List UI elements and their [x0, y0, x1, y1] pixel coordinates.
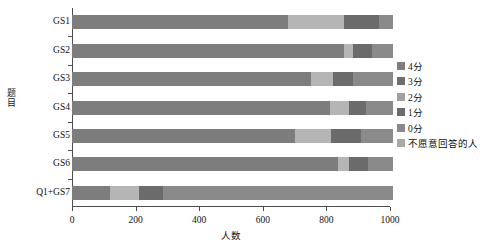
bar-segment — [72, 101, 330, 115]
y-axis-tick — [68, 65, 72, 66]
bar-row — [72, 186, 393, 200]
bar-segment — [349, 101, 366, 115]
legend-item[interactable]: 2分 — [397, 89, 489, 105]
legend-swatch-icon — [397, 139, 405, 147]
y-axis-tick — [68, 150, 72, 151]
bar-segment — [344, 15, 379, 29]
legend-label: 3分 — [408, 74, 423, 88]
y-axis-tick — [68, 122, 72, 123]
x-axis-tick — [72, 207, 73, 211]
plot-area: 02004006008001000 — [72, 8, 390, 207]
legend-swatch-icon — [397, 93, 405, 101]
bar-segment — [288, 15, 344, 29]
bar-segment — [72, 186, 110, 200]
bar-segment — [110, 186, 139, 200]
bar-segment — [330, 101, 349, 115]
legend-label: 4分 — [408, 59, 423, 73]
y-axis-category-labels: GS1GS2GS3GS4GS5GS6Q1+GS7 — [14, 0, 70, 207]
bar-segment — [344, 44, 354, 58]
x-axis-title: 人数 — [72, 228, 390, 242]
bar-row — [72, 15, 393, 29]
x-axis-line — [72, 206, 390, 207]
x-axis-tick-label: 600 — [256, 215, 270, 225]
x-axis-tick — [136, 207, 137, 211]
bar-row — [72, 129, 393, 143]
legend-label: 2分 — [408, 90, 423, 104]
bar-segment — [353, 72, 393, 86]
y-axis-category-label: GS2 — [22, 45, 70, 55]
legend-swatch-icon — [397, 108, 405, 116]
x-axis-tick — [326, 207, 327, 211]
legend-swatch-icon — [397, 62, 405, 70]
y-axis-tick — [68, 36, 72, 37]
y-axis-category-label: GS1 — [22, 16, 70, 26]
legend-item[interactable]: 4分 — [397, 58, 489, 74]
legend-label: 0分 — [408, 121, 423, 135]
bar-segment — [163, 186, 394, 200]
bar-segment — [139, 186, 163, 200]
y-axis-category-label: Q1+GS7 — [22, 187, 70, 197]
bar-segment — [72, 72, 311, 86]
y-axis-category-label: GS4 — [22, 102, 70, 112]
bar-segment — [72, 15, 288, 29]
bar-segment — [72, 44, 344, 58]
y-axis-category-label: GS3 — [22, 73, 70, 83]
bar-row — [72, 72, 393, 86]
legend-label: 1分 — [408, 105, 423, 119]
legend-item[interactable]: 0分 — [397, 120, 489, 136]
x-axis-tick-label: 1000 — [381, 215, 400, 225]
bar-segment — [338, 157, 349, 171]
bar-segment — [72, 157, 338, 171]
y-axis-tick — [68, 93, 72, 94]
bar-segment — [379, 15, 393, 29]
y-axis-tick — [68, 179, 72, 180]
bar-segment — [72, 129, 295, 143]
bar-segment — [295, 129, 332, 143]
x-axis-tick-label: 800 — [319, 215, 333, 225]
bar-segment — [353, 44, 372, 58]
legend-swatch-icon — [397, 124, 405, 132]
bar-row — [72, 101, 393, 115]
bar-segment — [349, 157, 368, 171]
bar-segment — [368, 157, 393, 171]
x-axis-tick — [390, 207, 391, 211]
x-axis-tick-label: 200 — [128, 215, 142, 225]
x-axis-tick-label: 0 — [70, 215, 75, 225]
y-axis-category-label: GS5 — [22, 130, 70, 140]
legend-item[interactable]: 不愿意回答的人 — [397, 136, 489, 152]
bar-segment — [361, 129, 393, 143]
legend-item[interactable]: 1分 — [397, 105, 489, 121]
bar-segment — [331, 129, 361, 143]
stacked-bar-chart: 题 目 GS1GS2GS3GS4GS5GS6Q1+GS7 02004006008… — [0, 0, 490, 247]
x-axis-tick-label: 400 — [192, 215, 206, 225]
legend-swatch-icon — [397, 77, 405, 85]
bar-segment — [311, 72, 333, 86]
x-axis-tick — [263, 207, 264, 211]
y-axis-category-label: GS6 — [22, 158, 70, 168]
legend-item[interactable]: 3分 — [397, 74, 489, 90]
bar-segment — [333, 72, 354, 86]
legend-label: 不愿意回答的人 — [408, 136, 478, 150]
bar-segment — [366, 101, 393, 115]
bar-segment — [372, 44, 393, 58]
bar-row — [72, 157, 393, 171]
x-axis-tick — [199, 207, 200, 211]
bar-row — [72, 44, 393, 58]
legend: 4分3分2分1分0分不愿意回答的人 — [397, 58, 489, 151]
